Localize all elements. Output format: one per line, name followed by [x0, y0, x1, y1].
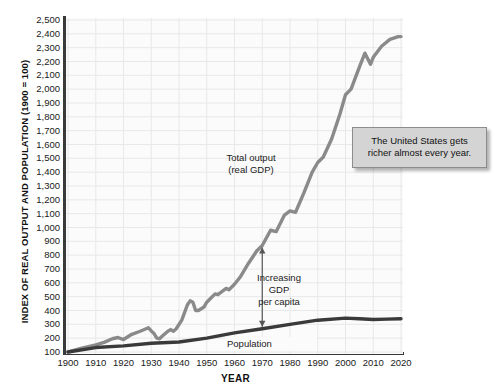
- annotation-gdp-per-capita-line2: GDP: [244, 284, 314, 296]
- annotation-total-output: Total output (real GDP): [196, 152, 306, 176]
- annotation-total-output-line2: (real GDP): [196, 164, 306, 176]
- x-axis-title: YEAR: [63, 373, 408, 384]
- y-axis-tick-label: 700: [26, 264, 60, 274]
- y-axis-tick-label: 100: [26, 347, 60, 357]
- annotation-gdp-per-capita-line3: per capita: [244, 296, 314, 308]
- plot-area: [66, 18, 403, 354]
- annotation-population: Population: [225, 337, 317, 351]
- y-axis-tick-label: 1,300: [26, 181, 60, 191]
- annotation-gdp-per-capita: Increasing GDP per capita: [244, 272, 314, 308]
- callout-line1: The United States gets: [359, 135, 480, 147]
- arrow-head-bottom: [259, 321, 265, 327]
- y-axis-tick-label: 1,100: [26, 209, 60, 219]
- y-axis-tick-label: 400: [26, 306, 60, 316]
- chart-svg: [66, 18, 403, 354]
- y-axis-tick-label: 500: [26, 292, 60, 302]
- y-axis-tick-label: 2,300: [26, 43, 60, 53]
- y-axis-tick-label: 1,500: [26, 153, 60, 163]
- y-axis-tick-label: 1,700: [26, 126, 60, 136]
- gridlines: [66, 18, 403, 354]
- x-axis-tick-label: 2020: [381, 357, 421, 368]
- y-axis-tick-label: 2,200: [26, 57, 60, 67]
- y-axis-tick-label: 1,400: [26, 167, 60, 177]
- y-axis-tick-label: 2,500: [26, 15, 60, 25]
- y-axis-tick-label: 2,100: [26, 70, 60, 80]
- y-axis-tick-label: 1,900: [26, 98, 60, 108]
- y-axis-tick-label: 1,000: [26, 223, 60, 233]
- y-axis-tick-label: 200: [26, 333, 60, 343]
- y-axis-tick-label: 2,000: [26, 84, 60, 94]
- y-axis-tick-label: 800: [26, 250, 60, 260]
- y-axis-tick-label: 1,200: [26, 195, 60, 205]
- y-axis-tick-labels: 1002003004005006007008009001,0001,1001,2…: [22, 0, 60, 390]
- y-axis-tick-label: 1,600: [26, 140, 60, 150]
- annotation-gdp-per-capita-line1: Increasing: [244, 272, 314, 284]
- y-axis-tick-label: 2,400: [26, 29, 60, 39]
- y-axis-tick-label: 600: [26, 278, 60, 288]
- callout-box: The United States gets richer almost eve…: [352, 127, 487, 168]
- y-axis-tick-label: 900: [26, 236, 60, 246]
- annotation-total-output-line1: Total output: [196, 152, 306, 164]
- chart-container: INDEX OF REAL OUTPUT AND POPULATION (190…: [0, 0, 497, 390]
- callout-line2: richer almost every year.: [359, 147, 480, 159]
- y-axis-tick-label: 300: [26, 319, 60, 329]
- y-axis-tick-label: 1,800: [26, 112, 60, 122]
